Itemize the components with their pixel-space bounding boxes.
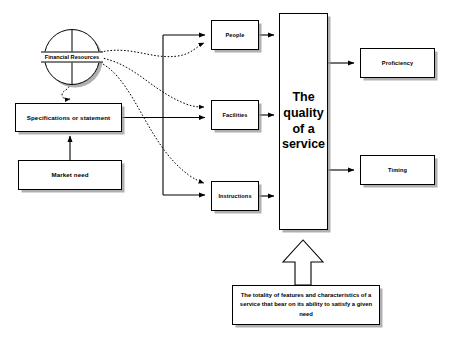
connector-finance-to-people — [97, 43, 204, 57]
node-quality-of-a-service-label: The quality of a service — [279, 90, 328, 153]
node-market-need-label: Market need — [48, 171, 91, 178]
node-definition-label: The totality of features and characteris… — [233, 291, 379, 318]
node-instructions-label: Instructions — [215, 193, 254, 199]
node-specifications[interactable]: Specifications or statement — [15, 103, 122, 132]
node-proficiency-label: Proficiency — [379, 60, 416, 66]
connector-finance-to-specifications — [62, 83, 70, 99]
diagram-canvas: Financial Resources Specifications or st… — [0, 0, 450, 340]
node-definition[interactable]: The totality of features and characteris… — [232, 285, 380, 325]
node-timing[interactable]: Timing — [360, 155, 435, 185]
node-facilities[interactable]: Facilities — [211, 100, 259, 130]
node-facilities-label: Facilities — [220, 112, 251, 118]
node-timing-label: Timing — [385, 167, 410, 173]
node-people-label: People — [223, 32, 248, 38]
connector-specifications-to-trunk — [122, 35, 205, 195]
node-quality-of-a-service[interactable]: The quality of a service — [279, 13, 328, 230]
connector-definition-block-arrow — [283, 240, 323, 285]
node-proficiency[interactable]: Proficiency — [360, 48, 435, 78]
node-financial-resources-label: Financial Resources — [41, 52, 103, 63]
connector-finance-to-facilities — [97, 57, 204, 107]
financial-resources-line2: Resources — [71, 54, 100, 60]
node-market-need[interactable]: Market need — [18, 160, 122, 190]
node-instructions[interactable]: Instructions — [211, 181, 259, 211]
node-specifications-label: Specifications or statement — [24, 114, 114, 121]
node-people[interactable]: People — [211, 20, 259, 50]
node-financial-resources[interactable]: Financial Resources — [44, 29, 100, 85]
financial-resources-line1: Financial — [45, 54, 69, 60]
